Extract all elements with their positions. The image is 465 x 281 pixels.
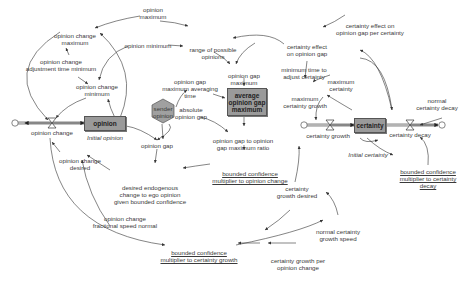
lookup-bc-multiplier-opinion-change[interactable]: bounded confidence multiplier to opinion… — [212, 170, 287, 184]
var-opinion-minimum[interactable]: opinion minimum — [125, 42, 172, 49]
stock-certainty[interactable]: certainty — [354, 118, 386, 133]
stock-flow-diagram: opinion average opinion gap maximum cert… — [0, 0, 465, 281]
lookup-bc-multiplier-certainty-growth[interactable]: bounded confidence multiplier to certain… — [160, 249, 237, 263]
var-certainty-growth-desired[interactable]: certainty growth desired — [277, 185, 318, 199]
var-certainty-growth-per-opinion-change[interactable]: certainty growth per opinion change — [271, 257, 325, 271]
var-sender-opinion[interactable]: sender opinion — [153, 105, 173, 119]
var-opinion-gap-to-maximum-ratio[interactable]: opinion gap to opinion gap maximum ratio — [213, 137, 274, 151]
var-opinion-gap-maximum[interactable]: opinion gap maximum — [228, 72, 260, 86]
flow-certainty-decay[interactable]: certainty decay — [389, 131, 431, 138]
var-opinion-change-minimum[interactable]: opinion change minimum — [76, 83, 118, 97]
flow-certainty-growth[interactable]: certainty growth — [306, 132, 350, 139]
var-opinion-change-fractional-speed-normal[interactable]: opinion change fractional speed normal — [93, 215, 157, 229]
var-opinion-change-adjustment-time-minimum[interactable]: opinion change adjustment time minimum — [26, 58, 97, 72]
stock-opinion[interactable]: opinion — [84, 116, 126, 131]
var-desired-endogenous-change[interactable]: desired endogenous change to ego opinion… — [114, 184, 186, 205]
lookup-bc-multiplier-certainty-decay[interactable]: bounded confidence multiplier to certain… — [400, 168, 457, 189]
initial-certainty[interactable]: Initial certainty — [348, 151, 388, 158]
var-normal-certainty-growth-speed[interactable]: normal certainty growth speed — [316, 228, 360, 242]
var-opinion-maximum[interactable]: opinion maximum — [140, 6, 167, 20]
var-certainty-effect-per-certainty[interactable]: certainty effect on opinion gap per cert… — [336, 22, 404, 36]
var-maximum-certainty[interactable]: maximum certainty — [328, 78, 355, 92]
stock-average-opinion-gap-maximum[interactable]: average opinion gap maximum — [227, 88, 267, 116]
var-maximum-certainty-growth[interactable]: maximum certainty growth — [283, 95, 327, 109]
var-normal-certainty-decay[interactable]: normal certainty decay — [416, 97, 458, 111]
var-minimum-time-adjust-certainty[interactable]: minimum time to adjust certainty — [281, 66, 326, 80]
var-absolute-opinion-gap[interactable]: absolute opinion gap — [175, 106, 207, 120]
var-certainty-effect-on-opinion-gap[interactable]: certainty effect on opinion gap — [287, 43, 328, 57]
var-opinion-gap-maximum-averaging-time[interactable]: opinion gap maximum averaging time — [162, 78, 218, 99]
var-range-of-possible-opinions[interactable]: range of possible opinions — [189, 46, 236, 60]
var-opinion-change-desired[interactable]: opinion change desired — [59, 157, 101, 171]
var-opinion-gap[interactable]: opinion gap — [141, 142, 173, 149]
var-opinion-change-maximum[interactable]: opinion change maximum — [54, 32, 96, 46]
flow-opinion-change[interactable]: opinion change — [31, 129, 73, 136]
initial-opinion[interactable]: Initial opinion — [87, 134, 123, 141]
